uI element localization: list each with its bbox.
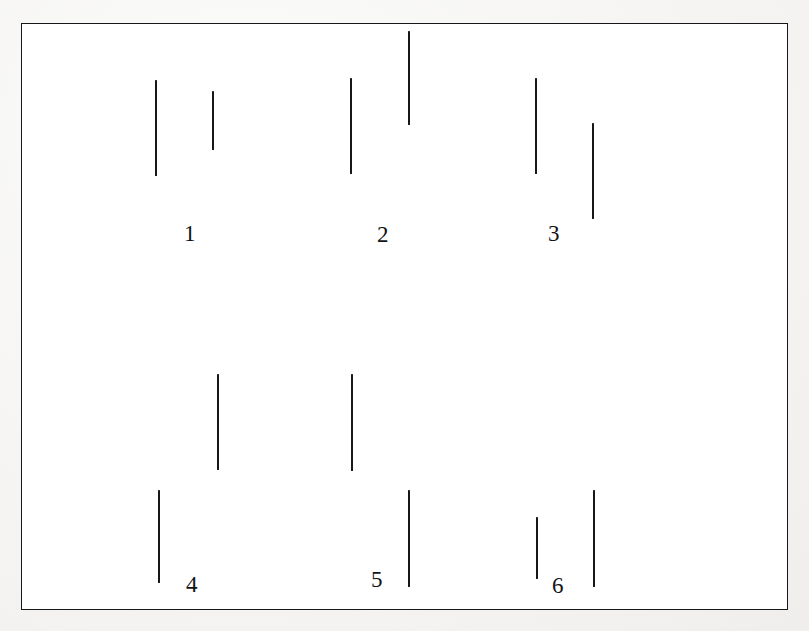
group-2-label: 2 [377, 223, 389, 246]
group-5-label: 5 [371, 568, 383, 591]
line-1b [212, 91, 214, 150]
line-3b [592, 123, 594, 219]
line-2b [408, 31, 410, 125]
line-1a [155, 80, 157, 176]
figure-root: 123456 [0, 0, 809, 631]
line-6b [593, 490, 595, 587]
panel-border [21, 23, 788, 610]
line-4a [158, 490, 160, 583]
group-3-label: 3 [548, 222, 560, 245]
line-3a [535, 78, 537, 174]
group-4-label: 4 [186, 573, 198, 596]
line-2a [350, 78, 352, 174]
line-5b [408, 490, 410, 587]
line-4b [217, 374, 219, 470]
line-5a [351, 374, 353, 471]
group-1-label: 1 [184, 222, 196, 245]
group-6-label: 6 [552, 574, 564, 597]
line-6a [536, 517, 538, 579]
